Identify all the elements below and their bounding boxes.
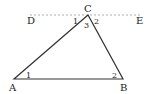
angle-C3: 3 (84, 21, 89, 30)
label-A: A (8, 82, 17, 93)
angle-C1: 1 (73, 17, 78, 26)
angle-A1: 1 (26, 71, 31, 80)
angle-C2: 2 (94, 17, 99, 26)
label-B: B (120, 82, 127, 93)
label-C: C (84, 3, 92, 14)
label-E: E (136, 15, 143, 26)
angle-B2: 2 (112, 71, 117, 80)
label-D: D (27, 15, 35, 26)
triangle-diagram: C D E A B 1 2 1 3 2 (0, 0, 150, 94)
